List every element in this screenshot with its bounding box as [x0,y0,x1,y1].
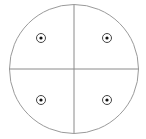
diagram-canvas [0,0,146,139]
quadrant-diagram [0,0,146,139]
target-dot-icon [105,36,108,39]
target-marker-top-left [37,34,46,43]
target-dot-icon [39,36,42,39]
target-marker-bottom-right [103,96,112,105]
target-dot-icon [105,98,108,101]
target-marker-bottom-left [37,96,46,105]
target-marker-top-right [103,34,112,43]
target-dot-icon [39,98,42,101]
